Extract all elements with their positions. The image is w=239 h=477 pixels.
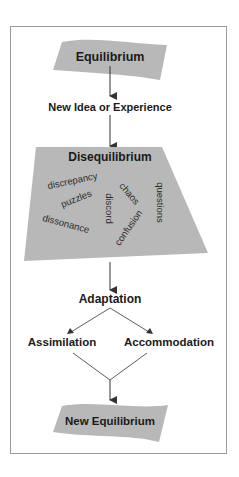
line-assimilation-merge [73,353,110,380]
node-disequilibrium: Disequilibrium [68,150,151,164]
arrow-adaptation-to-assimilation [71,308,110,332]
arrow-adaptation-to-accommodation [110,308,149,332]
node-adaptation: Adaptation [79,292,142,306]
node-accommodation: Accommodation [124,336,214,348]
node-new-idea: New Idea or Experience [48,101,172,113]
node-new-equilibrium: New Equilibrium [65,415,155,427]
node-assimilation: Assimilation [28,336,96,348]
line-accommodation-merge [110,353,147,380]
word-questions: questions [155,182,166,223]
word-discord: discord [104,193,115,224]
node-equilibrium: Equilibrium [76,50,145,64]
